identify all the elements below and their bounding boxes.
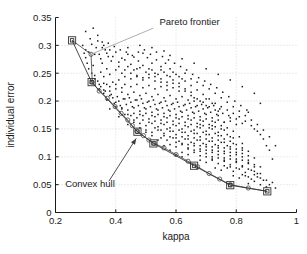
scatter-point [269,149,271,151]
scatter-point [196,126,198,128]
scatter-point [138,51,140,53]
scatter-point [227,167,229,169]
scatter-point [115,101,117,103]
scatter-point [189,103,191,105]
scatter-point [168,59,170,61]
y-tick-label: 0.15 [33,123,52,134]
y-tick-label: 0.25 [33,68,52,79]
scatter-point [202,132,204,134]
scatter-point [205,146,207,148]
scatter-point [236,148,238,150]
scatter-point [196,89,198,91]
scatter-point [205,130,207,132]
scatter-point [214,167,216,169]
convex-hull-label: Convex hull [65,178,115,189]
scatter-point [196,105,198,107]
scatter-point [214,133,216,135]
scatter-point [193,149,195,151]
scatter-point [157,109,159,111]
scatter-point [181,132,183,134]
scatter-point [133,56,135,58]
scatter-point [211,149,213,151]
scatter-point [97,40,99,42]
scatter-point [245,115,247,117]
scatter-point [266,179,268,181]
scatter-point [101,62,103,64]
scatter-point [220,128,222,130]
scatter-point [242,123,244,125]
y-axis-title: individual error [5,82,16,148]
scatter-point [219,108,221,110]
scatter-point [233,143,235,145]
scatter-point [133,69,135,71]
scatter-point [151,96,153,98]
scatter-point [105,90,107,92]
scatter-point [127,54,129,56]
scatter-point [220,142,222,144]
scatter-point [160,129,162,131]
scatter-point [154,80,156,82]
scatter-point [166,89,168,91]
scatter-point [175,125,177,127]
scatter-point [160,119,162,121]
scatter-point [115,51,117,53]
scatter-point [190,78,192,80]
scatter-point [199,148,201,150]
scatter-point [239,136,241,138]
scatter-point [163,97,165,99]
scatter-point [157,114,159,116]
scatter-point [145,71,147,73]
scatter-point [130,78,132,80]
scatter-point [254,93,256,95]
scatter-point [181,78,183,80]
scatter-point [199,155,201,157]
scatter-point [148,77,150,79]
scatter-point [169,115,171,117]
scatter-point [154,120,156,122]
scatter-point [202,94,204,96]
scatter-point [254,166,256,168]
scatter-point [174,62,176,64]
scatter-point [187,118,189,120]
scatter-point [156,108,158,110]
scatter-point [163,124,165,126]
scatter-point [220,169,222,171]
scatter-point [230,152,232,154]
scatter-point [193,62,195,64]
scatter-point [269,184,271,186]
scatter-point [169,76,171,78]
scatter-point [224,142,226,144]
scatter-point [217,110,219,112]
scatter-point [157,74,159,76]
scatter-point [111,94,113,96]
scatter-point [187,115,189,117]
scatter-point [196,123,198,125]
scatter-point [248,162,250,164]
scatter-point [141,98,143,100]
scatter-point [127,47,129,49]
scatter-point [187,148,189,150]
scatter-point [236,118,238,120]
scatter-point [142,115,144,117]
scatter-point [126,104,128,106]
scatter-point [109,95,111,97]
scatter-point [101,47,103,49]
scatter-point [257,173,259,175]
scatter-point [86,62,88,64]
scatter-point [242,174,244,176]
scatter-point [175,98,177,100]
scatter-point [208,134,210,136]
scatter-point [224,151,226,153]
scatter-point [98,54,100,56]
scatter-point [154,88,156,90]
scatter-point [172,83,174,85]
scatter-point [160,81,162,83]
scatter-point [114,103,116,105]
scatter-point [166,105,168,107]
scatter-point [115,88,117,90]
scatter-point [148,100,150,102]
scatter-point [248,168,250,170]
scatter-point [151,112,153,114]
scatter-point [230,117,232,119]
scatter-point [132,106,134,108]
